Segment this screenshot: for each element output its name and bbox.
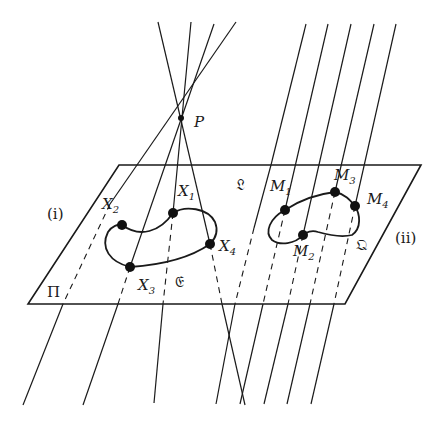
ray-x3-lower: [83, 304, 118, 405]
ray-x3-hidden: [118, 267, 130, 304]
ray-x1-hidden: [163, 213, 173, 304]
label-x4: X4: [218, 237, 236, 257]
parallel-ray-1-hidden: [235, 228, 254, 304]
parallel-ray-m1-lower: [240, 304, 263, 404]
label-plane-pi: Π: [47, 283, 60, 301]
label-x3: X3: [137, 276, 155, 296]
curve-c: [105, 209, 216, 267]
label-x2: X2: [101, 195, 119, 215]
ray-x3-upper: [130, 24, 214, 267]
ray-x2-upper: [110, 22, 236, 204]
plane-pi: [28, 165, 421, 304]
label-m4: M4: [366, 190, 389, 210]
label-line-l: 𝔏: [236, 176, 245, 194]
label-curve-c: 𝔈: [175, 273, 184, 291]
parallel-projection-lines: [216, 24, 396, 404]
labels: P X1 X2 X3 X4 M1 M2 M3 M4 (i) (ii) Π 𝔏 𝔈…: [47, 113, 416, 301]
point-m1: [280, 205, 290, 215]
ray-x1-lower: [154, 304, 163, 403]
label-m3: M3: [333, 166, 356, 186]
parallel-ray-m4-lower: [311, 304, 334, 404]
parallel-ray-m3-hidden: [310, 192, 335, 304]
parallel-ray-m3-lower: [287, 304, 310, 404]
parallel-ray-m2-lower: [264, 304, 288, 404]
curve-q: [268, 192, 359, 243]
parallel-ray-m1-upper: [285, 24, 328, 210]
label-x1: X1: [177, 182, 195, 202]
label-curve-q: 𝔔: [356, 236, 368, 254]
label-m2: M2: [292, 242, 315, 262]
label-region-ii: (ii): [395, 229, 416, 247]
parallel-ray-1-mid: [254, 165, 271, 228]
label-p: P: [193, 113, 205, 131]
ray-x2-lower: [23, 304, 63, 405]
parallel-ray-m2-upper: [303, 24, 351, 235]
projection-diagram: P X1 X2 X3 X4 M1 M2 M3 M4 (i) (ii) Π 𝔏 𝔈…: [0, 0, 445, 423]
label-region-i: (i): [47, 205, 64, 223]
point-x2: [117, 220, 127, 230]
ray-x2-hidden: [63, 204, 110, 304]
point-m4: [350, 201, 360, 211]
point-x1: [168, 208, 178, 218]
label-m1: M1: [269, 177, 292, 197]
point-p: [178, 115, 184, 121]
parallel-ray-m4-hidden: [334, 206, 355, 304]
point-x4: [205, 239, 215, 249]
parallel-ray-m1-hidden: [263, 210, 285, 304]
point-m3: [330, 187, 340, 197]
point-m2: [298, 230, 308, 240]
point-x3: [125, 262, 135, 272]
parallel-ray-m4-upper: [355, 24, 396, 206]
